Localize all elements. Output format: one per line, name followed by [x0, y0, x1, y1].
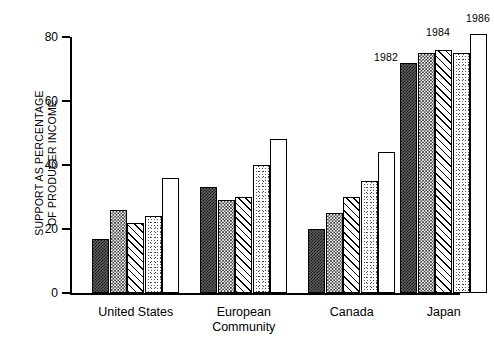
bar [110, 210, 127, 293]
x-axis-label: Japan [384, 305, 494, 320]
bar-group [308, 37, 396, 293]
bar [145, 216, 162, 293]
y-tick-mark [62, 292, 70, 294]
y-tick-mark [62, 228, 70, 230]
bar [253, 165, 270, 293]
y-tick-label: 0 [51, 286, 58, 300]
bar [453, 53, 470, 293]
plot-area: 020406080 United StatesEuropean Communit… [70, 37, 460, 293]
y-tick-label: 40 [45, 158, 58, 172]
bar [343, 197, 360, 293]
bar [418, 53, 435, 293]
y-tick-label: 20 [45, 222, 58, 236]
year-label-1982: 1982 [374, 51, 398, 63]
y-tick-mark [62, 164, 70, 166]
year-label-1986: 1986 [466, 12, 490, 24]
bar [92, 239, 109, 293]
bar [400, 63, 417, 293]
bar [270, 139, 287, 293]
x-axis-label: European Community [184, 305, 304, 335]
y-tick-label: 80 [45, 30, 58, 44]
y-tick-mark [62, 100, 70, 102]
x-axis-label: United States [76, 305, 196, 320]
bar [470, 34, 487, 293]
x-axis-line [70, 293, 460, 295]
bar [235, 197, 252, 293]
bar [127, 223, 144, 293]
bar [218, 200, 235, 293]
bar [378, 152, 395, 293]
year-label-1984: 1984 [426, 26, 450, 38]
bar [308, 229, 325, 293]
bar-groups [70, 37, 460, 293]
bar [326, 213, 343, 293]
y-tick-label: 60 [45, 94, 58, 108]
bar [361, 181, 378, 293]
bar-group [400, 37, 488, 293]
bar [435, 50, 452, 293]
bar-group [200, 37, 288, 293]
bar-group [92, 37, 180, 293]
y-tick-mark [62, 36, 70, 38]
bar [162, 178, 179, 293]
bar [200, 187, 217, 293]
